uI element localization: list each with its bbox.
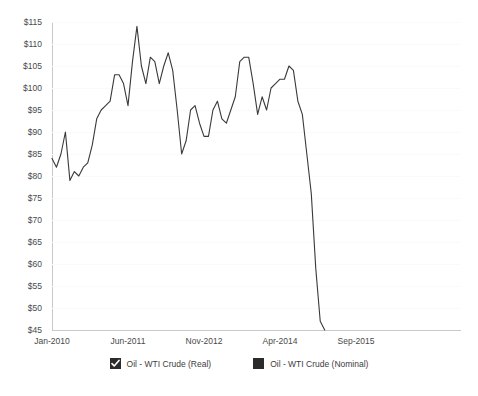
y-axis-tick-label: $50 [28,303,42,313]
y-axis-tick-label: $60 [28,259,42,269]
x-axis-tick-label: Apr-2014 [263,336,298,346]
legend-item-oil-wti-crude-real[interactable]: Oil - WTI Crude (Real) [110,358,212,369]
y-axis-tick-label: $95 [28,105,42,115]
x-axis-tick-label: Nov-2012 [186,336,223,346]
x-axis-tick-label: Jan-2010 [34,336,69,346]
line-chart: $115$110$105$100$95$90$85$80$75$70$65$60… [0,0,478,396]
plot-area [52,22,460,330]
y-axis-tick-label: $110 [24,39,42,49]
checkbox-unchecked-icon[interactable] [253,358,264,369]
y-axis-tick-label: $75 [28,193,42,203]
y-axis-tick-label: $70 [28,215,42,225]
legend-label: Oil - WTI Crude (Nominal) [270,359,368,369]
y-axis-tick-label: $90 [28,127,42,137]
series-oil-wti-crude-real [52,22,460,330]
y-axis-tick-label: $105 [23,61,42,71]
y-axis-tick-label: $85 [28,149,42,159]
y-axis-tick-label: $80 [28,171,42,181]
y-axis-tick-label: $115 [24,17,42,27]
x-axis-labels: Jan-2010Jun-2011Nov-2012Apr-2014Sep-2015 [0,336,478,356]
chart-legend: Oil - WTI Crude (Real) Oil - WTI Crude (… [0,358,478,369]
x-axis-line [52,330,461,331]
y-axis-tick-label: $55 [28,281,42,291]
checkbox-checked-icon[interactable] [110,358,121,369]
y-axis-tick-label: $65 [28,237,42,247]
x-axis-tick-label: Sep-2015 [338,336,375,346]
y-axis-tick-label: $45 [28,325,42,335]
legend-label: Oil - WTI Crude (Real) [127,359,212,369]
legend-item-oil-wti-crude-nominal[interactable]: Oil - WTI Crude (Nominal) [253,358,368,369]
x-axis-tick-label: Jun-2011 [111,336,146,346]
y-axis-tick-label: $100 [23,83,42,93]
